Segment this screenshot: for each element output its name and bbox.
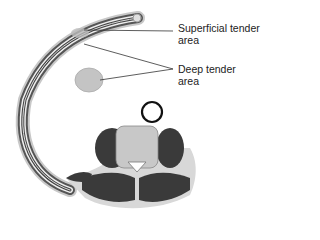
label-line-1: Deep tender <box>178 63 236 75</box>
vertebra-section <box>66 126 196 208</box>
reference-circle-marker <box>142 102 162 122</box>
label-line-2: area <box>178 34 260 46</box>
label-line-1: Superficial tender <box>178 22 260 34</box>
label-line-2: area <box>178 75 236 87</box>
deep-tender-area <box>75 68 103 92</box>
deep-tender-area-label: Deep tender area <box>178 63 236 87</box>
superficial-tender-area <box>71 28 89 38</box>
superficial-tender-area-label: Superficial tender area <box>178 22 260 46</box>
